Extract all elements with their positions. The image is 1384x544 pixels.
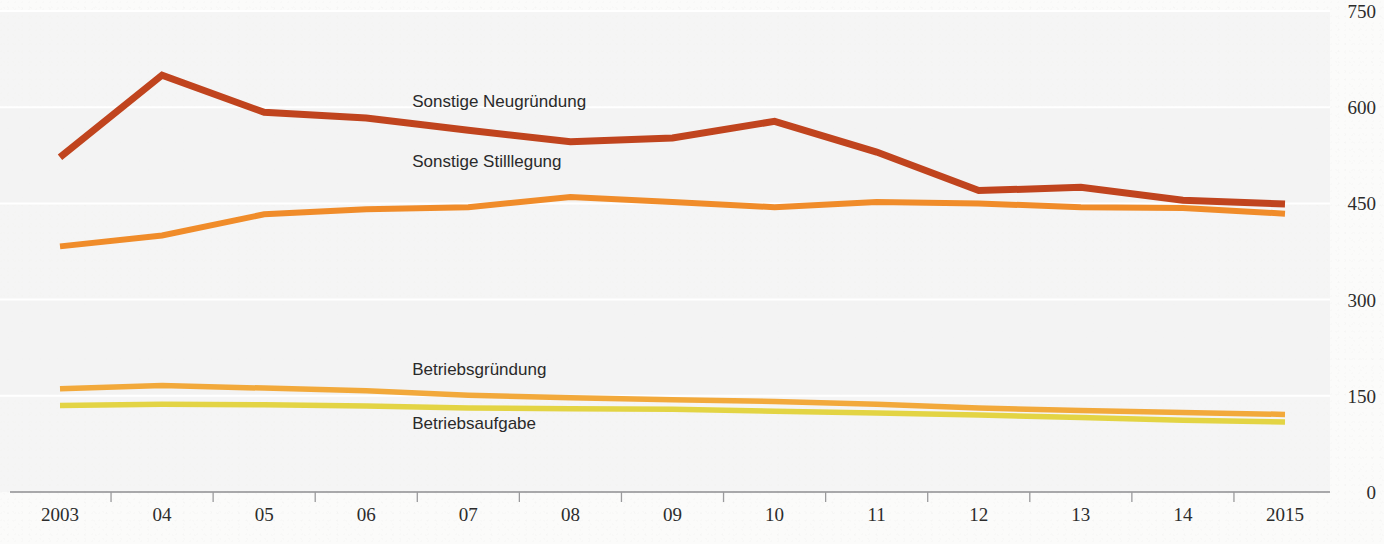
x-axis-tick-label: 04 [153, 504, 173, 525]
x-axis-tick-label: 14 [1173, 504, 1193, 525]
series-label-3: Betriebsgründung [412, 360, 546, 379]
x-axis-tick-label: 08 [561, 504, 580, 525]
background-band [0, 11, 1330, 107]
x-axis-tick-label: 12 [969, 504, 988, 525]
y-axis-tick-label: 600 [1348, 97, 1377, 118]
y-axis-tick-label: 300 [1348, 290, 1377, 311]
y-axis-tick-label: 0 [1367, 482, 1377, 503]
x-axis-tick-label: 07 [459, 504, 478, 525]
background-band [0, 300, 1330, 396]
x-axis-labels: 200304050607080910111213142015 [41, 504, 1304, 525]
y-axis-tick-label: 150 [1348, 386, 1377, 407]
y-axis-tick-label: 750 [1348, 1, 1377, 22]
chart-container: 7506004503001500 20030405060708091011121… [0, 0, 1384, 544]
background-band [0, 203, 1330, 299]
background-band [0, 107, 1330, 203]
series-label-2: Sonstige Stilllegung [412, 152, 561, 171]
x-axis-tick-label: 06 [357, 504, 376, 525]
y-axis-tick-label: 450 [1348, 193, 1377, 214]
x-axis-tick-label: 10 [765, 504, 784, 525]
x-axis-ticks [111, 492, 1234, 502]
x-axis-tick-label: 2003 [41, 504, 79, 525]
series-label-4: Betriebsaufgabe [412, 414, 536, 433]
x-axis-tick-label: 05 [255, 504, 274, 525]
y-axis-labels: 7506004503001500 [1348, 1, 1377, 503]
series-label-1: Sonstige Neugründung [412, 92, 586, 111]
line-chart: 7506004503001500 20030405060708091011121… [0, 0, 1384, 544]
x-axis-tick-label: 2015 [1266, 504, 1304, 525]
x-axis-tick-label: 13 [1071, 504, 1090, 525]
x-axis-tick-label: 11 [868, 504, 886, 525]
x-axis-tick-label: 09 [663, 504, 682, 525]
